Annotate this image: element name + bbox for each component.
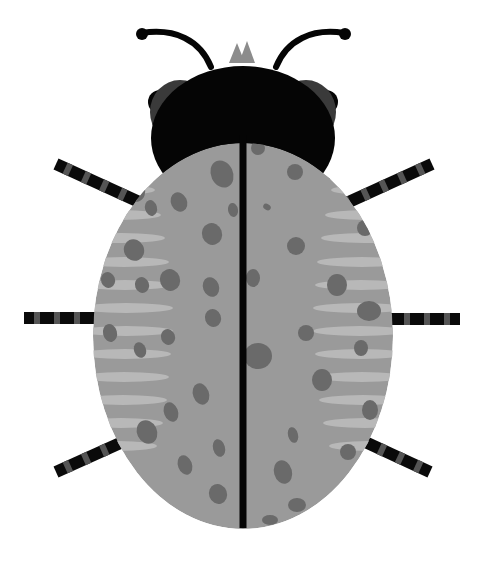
- shell-seam: [240, 135, 247, 528]
- stripe: [319, 395, 407, 405]
- horn: [239, 41, 255, 63]
- spot: [340, 444, 356, 460]
- spot: [357, 301, 381, 321]
- stripe: [325, 210, 407, 220]
- spot: [298, 325, 314, 341]
- leg: [54, 159, 147, 210]
- stripe: [79, 395, 167, 405]
- antenna-tip: [339, 28, 351, 40]
- spot: [262, 515, 278, 525]
- spot: [326, 163, 346, 181]
- antenna: [142, 32, 211, 67]
- spot: [327, 274, 347, 296]
- beetle-illustration: [0, 0, 484, 573]
- antenna-tip: [136, 28, 148, 40]
- stripe: [313, 326, 407, 336]
- spot: [357, 220, 373, 236]
- stripe: [79, 326, 173, 336]
- stripe: [79, 303, 173, 313]
- spot: [287, 164, 303, 180]
- stripe: [79, 349, 171, 359]
- stripe: [79, 372, 169, 382]
- stripe: [79, 233, 165, 243]
- spot: [246, 269, 260, 287]
- leg: [341, 159, 434, 210]
- stripe: [79, 257, 169, 267]
- beetle-horns: [229, 41, 255, 63]
- spot: [362, 400, 378, 420]
- spot: [287, 237, 305, 255]
- stripe: [339, 160, 407, 170]
- stripe: [323, 418, 407, 428]
- spot: [244, 343, 272, 369]
- spot: [288, 498, 306, 512]
- beetle-graphic: [0, 0, 484, 573]
- antenna: [276, 32, 344, 67]
- spot: [312, 369, 332, 391]
- stripe: [79, 160, 147, 170]
- spot: [354, 340, 368, 356]
- stripe: [79, 280, 171, 290]
- stripe: [317, 257, 407, 267]
